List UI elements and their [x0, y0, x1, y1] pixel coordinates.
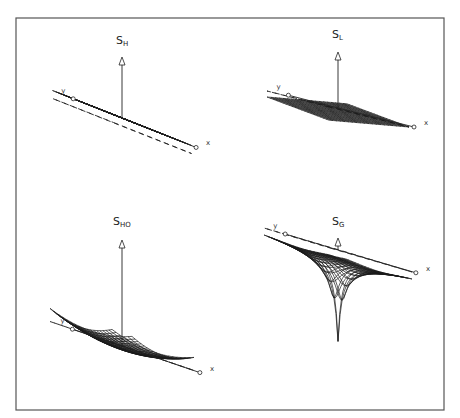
- panel-sg: xy: [264, 222, 430, 341]
- panel-sh: xy: [53, 57, 211, 154]
- mesh-line: [305, 250, 371, 342]
- x-axis-arrowhead: [412, 125, 416, 129]
- y-axis-label: y: [273, 222, 277, 230]
- x-axis-label: x: [426, 265, 430, 273]
- figure-frame: [16, 18, 444, 410]
- x-axis: [122, 118, 196, 147]
- y-axis-label: y: [276, 83, 280, 91]
- y-axis-arrowhead: [283, 232, 287, 236]
- z-axis-arrowhead: [335, 238, 341, 246]
- x-axis-arrowhead: [194, 145, 198, 149]
- y-axis-arrowhead: [286, 93, 290, 97]
- x-axis-arrowhead: [198, 371, 202, 375]
- label-sh: SH: [116, 34, 128, 48]
- z-axis-arrowhead: [335, 52, 341, 60]
- y-axis-label: y: [61, 87, 65, 95]
- panel-sho: xy: [50, 240, 214, 375]
- y-axis-arrowhead: [71, 97, 75, 101]
- x-axis-label: x: [210, 365, 214, 373]
- y-axis-label: y: [60, 317, 64, 325]
- label-sho: SHO: [113, 215, 131, 229]
- y-axis: [73, 99, 122, 118]
- x-axis-label: x: [424, 119, 428, 127]
- y-axis: [72, 329, 122, 346]
- x-axis-label: x: [206, 139, 210, 147]
- panel-sl: xy: [267, 52, 428, 129]
- label-sl: SL: [332, 28, 343, 42]
- x-axis: [122, 346, 200, 373]
- x-axis-arrowhead: [414, 271, 418, 275]
- mesh-line: [264, 235, 346, 259]
- z-axis-arrowhead: [119, 57, 125, 65]
- figure: xy xy xy xy SH SL SHO SG: [0, 0, 460, 418]
- z-axis-arrowhead: [119, 240, 125, 248]
- label-sg: SG: [332, 215, 344, 229]
- y-axis-arrowhead: [70, 327, 74, 331]
